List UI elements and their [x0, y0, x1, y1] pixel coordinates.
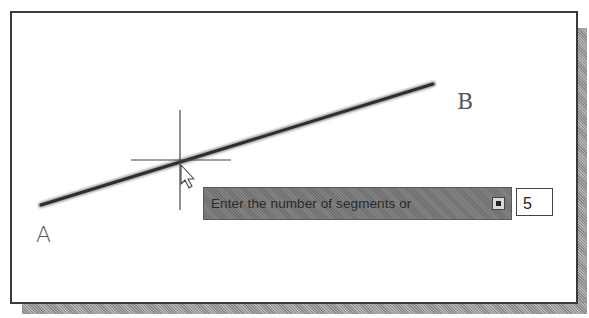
point-a-label: A [36, 222, 51, 247]
point-b-label: B [457, 89, 473, 114]
prompt-text: Enter the number of segments or [211, 196, 411, 211]
segments-count-input[interactable] [516, 188, 553, 216]
dropdown-arrow-icon[interactable] [492, 197, 505, 210]
dynamic-input-prompt: Enter the number of segments or [203, 187, 512, 220]
drawing-layer [0, 0, 589, 318]
arrow-pointer-icon [181, 165, 194, 188]
